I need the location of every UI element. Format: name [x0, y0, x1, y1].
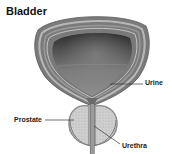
label-prostate: Prostate	[14, 116, 42, 123]
label-urine: Urine	[145, 79, 163, 86]
bladder-diagram: Bladder Urine Prostate Urethra	[0, 0, 172, 154]
diagram-title: Bladder	[6, 5, 47, 17]
label-urethra: Urethra	[122, 142, 147, 149]
bladder-illustration	[0, 0, 172, 154]
